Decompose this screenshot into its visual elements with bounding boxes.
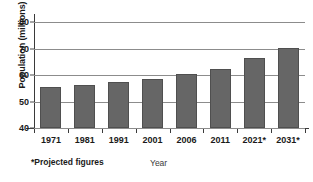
x-tick-label-2001: 2001 xyxy=(143,135,163,145)
bar-1991 xyxy=(108,82,129,128)
y-tick-label-60: 60 xyxy=(19,70,29,80)
x-tick-mark-0 xyxy=(34,129,35,133)
x-tick-mark-8 xyxy=(305,129,306,133)
plot-area: 4050607080 xyxy=(34,22,305,128)
gridline-80 xyxy=(34,22,305,23)
bar-2031-projected xyxy=(278,48,299,128)
x-tick-mark-7 xyxy=(271,129,272,133)
x-tick-label-2006: 2006 xyxy=(176,135,196,145)
y-tick-mark-70 xyxy=(30,48,34,49)
y-tick-mark-80 xyxy=(30,22,34,23)
x-tick-mark-5 xyxy=(203,129,204,133)
x-tick-label-1981: 1981 xyxy=(75,135,95,145)
y-tick-mark-50 xyxy=(30,101,34,102)
y-tick-mark-60 xyxy=(30,75,34,76)
x-tick-mark-2 xyxy=(102,129,103,133)
y-tick-label-70: 70 xyxy=(19,44,29,54)
bar-1971 xyxy=(40,87,61,128)
x-tick-mark-6 xyxy=(237,129,238,133)
bar-2001 xyxy=(142,79,163,128)
x-tick-label-1991: 1991 xyxy=(109,135,129,145)
gridline-70 xyxy=(34,49,305,50)
x-axis-title: Year xyxy=(150,158,167,168)
x-tick-label-2011: 2011 xyxy=(211,135,231,145)
bar-2006 xyxy=(176,74,197,128)
x-tick-label-1971: 1971 xyxy=(41,135,61,145)
y-tick-label-40: 40 xyxy=(19,123,29,133)
y-tick-label-80: 80 xyxy=(19,17,29,27)
x-tick-mark-1 xyxy=(68,129,69,133)
bar-2021-projected xyxy=(244,58,265,128)
x-tick-mark-3 xyxy=(136,129,137,133)
bar-1981 xyxy=(74,85,95,128)
population-bar-chart: Population (millions) 4050607080 *Projec… xyxy=(0,0,313,182)
x-tick-label-2031-projected: 2031* xyxy=(276,135,300,145)
x-tick-label-2021-projected: 2021* xyxy=(242,135,266,145)
y-tick-label-50: 50 xyxy=(19,97,29,107)
x-tick-mark-4 xyxy=(170,129,171,133)
bar-2011 xyxy=(210,69,231,128)
projected-figures-footnote: *Projected figures xyxy=(31,157,104,167)
